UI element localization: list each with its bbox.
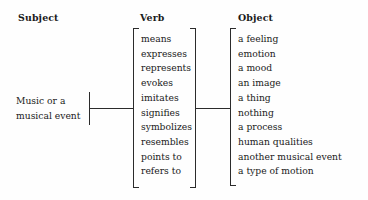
subject-phrase-line-1: Music or a xyxy=(16,94,92,109)
verb-bracket-open xyxy=(133,28,139,188)
object-item: another musical event xyxy=(238,150,342,165)
verb-item: imitates xyxy=(141,91,192,106)
connector-verb-to-object xyxy=(195,108,231,109)
object-item: nothing xyxy=(238,106,342,121)
object-item: a thing xyxy=(238,91,342,106)
subject-phrase: Music or a musical event xyxy=(16,94,92,123)
verb-item: means xyxy=(141,32,192,47)
column-header-subject: Subject xyxy=(18,13,59,22)
object-item: human qualities xyxy=(238,135,342,150)
object-item: a process xyxy=(238,120,342,135)
verb-item: expresses xyxy=(141,47,192,62)
verb-item: refers to xyxy=(141,164,192,179)
connector-subject-to-verb xyxy=(89,108,134,109)
verb-item: represents xyxy=(141,61,192,76)
subject-phrase-line-2: musical event xyxy=(16,109,92,124)
object-item: a type of motion xyxy=(238,164,342,179)
column-header-object: Object xyxy=(238,13,273,22)
object-list: a feeling emotion a mood an image a thin… xyxy=(238,32,342,179)
verb-list: means expresses represents evokes imitat… xyxy=(141,32,192,179)
verb-item: resembles xyxy=(141,135,192,150)
object-item: a mood xyxy=(238,61,342,76)
column-header-verb: Verb xyxy=(140,13,164,22)
verb-item: symbolizes xyxy=(141,120,192,135)
verb-item: points to xyxy=(141,150,192,165)
object-item: emotion xyxy=(238,47,342,62)
object-item: a feeling xyxy=(238,32,342,47)
verb-item: signifies xyxy=(141,106,192,121)
object-bracket-open xyxy=(230,28,236,186)
verb-item: evokes xyxy=(141,76,192,91)
diagram-canvas: Subject Verb Object Music or a musical e… xyxy=(0,0,368,200)
object-item: an image xyxy=(238,76,342,91)
